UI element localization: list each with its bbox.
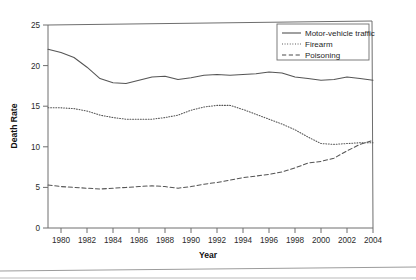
chart-legend: Motor-vehicle traffic Firearm Poisoning: [277, 24, 375, 60]
line-chart-canvas: 0 5 10 15 20 25 1980 1982 1984 1986 1988: [0, 0, 416, 280]
series-line-firearm: [48, 105, 373, 144]
legend-label-poisoning: Poisoning: [305, 51, 340, 60]
x-tick-label-1988: 1988: [156, 236, 175, 245]
x-tick-label-1986: 1986: [130, 236, 149, 245]
y-axis-title: Death Rate: [9, 103, 19, 148]
y-tick-label-10: 10: [31, 143, 41, 152]
x-tick-label-1996: 1996: [260, 236, 279, 245]
page-edge-line: [0, 267, 416, 271]
x-tick-label-1990: 1990: [182, 236, 201, 245]
y-tick-label-5: 5: [35, 183, 40, 192]
x-tick-label-1992: 1992: [208, 236, 227, 245]
x-tick-label-1994: 1994: [234, 236, 253, 245]
x-tick-label-2000: 2000: [312, 236, 331, 245]
y-axis-ticks: 0 5 10 15 20 25: [31, 21, 48, 233]
x-tick-label-2004: 2004: [364, 236, 383, 245]
x-tick-label-1998: 1998: [286, 236, 305, 245]
y-tick-label-25: 25: [31, 21, 41, 30]
legend-label-firearm: Firearm: [305, 40, 333, 49]
y-tick-label-15: 15: [31, 102, 41, 111]
x-tick-label-2002: 2002: [338, 236, 357, 245]
x-tick-label-1982: 1982: [78, 236, 97, 245]
y-tick-label-20: 20: [31, 62, 41, 71]
series-line-poisoning: [48, 140, 373, 189]
y-tick-label-0: 0: [35, 224, 40, 233]
x-tick-label-1984: 1984: [104, 236, 123, 245]
x-axis-title: Year: [199, 250, 218, 260]
legend-label-motor-vehicle-traffic: Motor-vehicle traffic: [305, 29, 375, 38]
frame-right-edge: [372, 21, 373, 228]
data-series-group: [48, 49, 373, 189]
chart-figure: 0 5 10 15 20 25 1980 1982 1984 1986 1988: [0, 0, 416, 280]
x-axis-ticks: 1980 1982 1984 1986 1988 1990 1992 1994 …: [52, 228, 383, 245]
x-tick-label-1980: 1980: [52, 236, 71, 245]
